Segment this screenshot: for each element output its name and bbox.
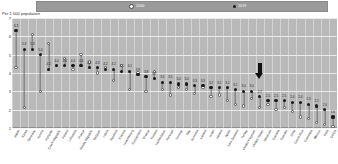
data-point-2000[interactable] [250, 97, 253, 100]
legend-item-2019[interactable]: 2019 [233, 2, 246, 11]
data-point-2000[interactable] [291, 110, 294, 113]
data-point-2000[interactable] [323, 123, 326, 126]
data-point-2019[interactable] [161, 81, 164, 84]
data-column[interactable]: 4.2 [110, 18, 118, 128]
data-column[interactable]: 2.5 [264, 18, 272, 128]
data-point-2000[interactable] [39, 90, 42, 93]
data-column[interactable]: 3.0 [240, 18, 248, 128]
data-column[interactable]: 3.1 [231, 18, 239, 128]
data-point-2019[interactable] [242, 90, 245, 93]
data-point-2019[interactable] [14, 29, 17, 32]
data-point-2019[interactable] [331, 115, 334, 118]
data-column[interactable]: 5.0 [36, 18, 44, 128]
data-column[interactable]: 4.1 [118, 18, 126, 128]
data-point-2019[interactable] [79, 64, 82, 67]
data-column[interactable]: 4.1 [126, 18, 134, 128]
data-column[interactable]: 6.3 [12, 18, 20, 128]
data-column[interactable]: 4.3 [85, 18, 93, 128]
data-point-2019[interactable] [315, 104, 318, 107]
data-column[interactable]: 3.2 [215, 18, 223, 128]
data-point-2019[interactable] [112, 68, 115, 71]
data-point-2019[interactable] [307, 103, 310, 106]
data-column[interactable]: 2.5 [280, 18, 288, 128]
data-point-2019[interactable] [274, 99, 277, 102]
data-point-2019[interactable] [185, 82, 188, 85]
data-point-2019[interactable] [88, 66, 91, 69]
data-point-2000[interactable] [23, 106, 26, 109]
data-column[interactable]: 2.4 [288, 18, 296, 128]
data-point-2000[interactable] [177, 86, 180, 89]
data-point-2019[interactable] [291, 101, 294, 104]
data-column[interactable]: 3.3 [199, 18, 207, 128]
data-column[interactable]: 3.4 [175, 18, 183, 128]
data-point-2000[interactable] [14, 66, 17, 69]
data-point-2000[interactable] [218, 93, 221, 96]
data-point-2019[interactable] [234, 88, 237, 91]
data-point-2019[interactable] [169, 81, 172, 84]
data-point-2000[interactable] [71, 68, 74, 71]
data-column[interactable]: 4.3 [93, 18, 101, 128]
data-point-2000[interactable] [144, 90, 147, 93]
data-point-2000[interactable] [209, 95, 212, 98]
data-point-2000[interactable] [299, 115, 302, 118]
data-point-2019[interactable] [299, 101, 302, 104]
data-point-2000[interactable] [283, 106, 286, 109]
data-point-2000[interactable] [226, 99, 229, 102]
data-column[interactable]: 1.6 [329, 18, 337, 128]
data-point-2000[interactable] [274, 108, 277, 111]
data-point-2000[interactable] [169, 93, 172, 96]
data-column[interactable]: 4.4 [53, 18, 61, 128]
data-point-2000[interactable] [128, 88, 131, 91]
data-point-2019[interactable] [226, 86, 229, 89]
data-column[interactable]: 3.5 [166, 18, 174, 128]
data-point-2019[interactable] [96, 66, 99, 69]
data-column[interactable]: 4.2 [45, 18, 53, 128]
data-column[interactable]: 4.2 [101, 18, 109, 128]
data-point-2000[interactable] [315, 121, 318, 124]
data-column[interactable]: 4.4 [61, 18, 69, 128]
data-point-2019[interactable] [39, 53, 42, 56]
data-point-2000[interactable] [266, 103, 269, 106]
data-point-2000[interactable] [242, 104, 245, 107]
data-point-2019[interactable] [266, 99, 269, 102]
data-column[interactable]: 2.5 [272, 18, 280, 128]
data-column[interactable]: 3.3 [191, 18, 199, 128]
data-point-2000[interactable] [331, 125, 334, 128]
data-point-2019[interactable] [209, 86, 212, 89]
data-point-2000[interactable] [79, 53, 82, 56]
data-column[interactable]: 4.4 [77, 18, 85, 128]
data-point-2000[interactable] [47, 42, 50, 45]
data-point-2000[interactable] [258, 106, 261, 109]
data-point-2000[interactable] [112, 79, 115, 82]
data-column[interactable]: 5.3 [28, 18, 36, 128]
data-point-2019[interactable] [258, 95, 261, 98]
data-column[interactable]: 3.8 [142, 18, 150, 128]
data-point-2000[interactable] [193, 92, 196, 95]
data-column[interactable]: 3.7 [150, 18, 158, 128]
data-point-2019[interactable] [177, 82, 180, 85]
data-point-2019[interactable] [55, 64, 58, 67]
legend-item-2000[interactable]: 2000 [129, 2, 144, 11]
data-point-2019[interactable] [63, 64, 66, 67]
data-point-2019[interactable] [250, 90, 253, 93]
data-column[interactable]: 2.4 [296, 18, 304, 128]
data-column[interactable]: 3.9 [134, 18, 142, 128]
data-point-2019[interactable] [128, 70, 131, 73]
data-column[interactable]: 3.5 [158, 18, 166, 128]
data-point-2019[interactable] [120, 70, 123, 73]
data-point-2019[interactable] [323, 108, 326, 111]
data-column[interactable]: 2.3 [305, 18, 313, 128]
data-point-2000[interactable] [96, 71, 99, 74]
data-point-2019[interactable] [193, 84, 196, 87]
data-point-2019[interactable] [47, 68, 50, 71]
data-column[interactable]: 5.3 [20, 18, 28, 128]
data-column[interactable]: 2.2 [313, 18, 321, 128]
data-point-2019[interactable] [71, 64, 74, 67]
data-column[interactable]: 4.4 [69, 18, 77, 128]
data-column[interactable]: 2.0 [321, 18, 329, 128]
data-column[interactable]: 3.4 [183, 18, 191, 128]
data-column[interactable]: 3.2 [223, 18, 231, 128]
data-point-2000[interactable] [234, 103, 237, 106]
data-point-2000[interactable] [307, 117, 310, 120]
data-point-2019[interactable] [104, 68, 107, 71]
